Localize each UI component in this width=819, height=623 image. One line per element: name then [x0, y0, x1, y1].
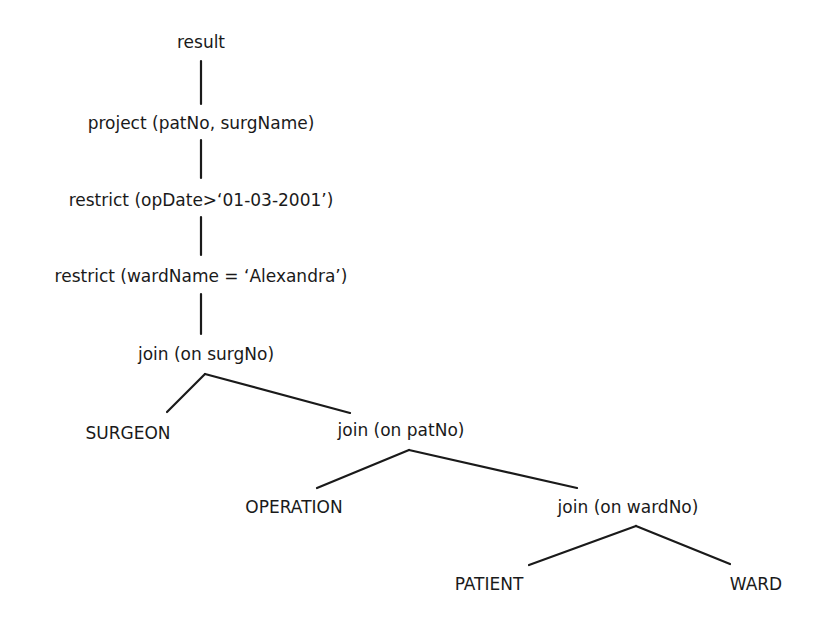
node-patient: PATIENT [455, 574, 524, 594]
node-ward: WARD [730, 574, 782, 594]
edge-join1-surgeon [167, 374, 205, 412]
node-join-surgno: join (on surgNo) [138, 344, 274, 364]
node-join-wardno: join (on wardNo) [558, 497, 699, 517]
node-result: result [177, 32, 225, 52]
edge-join3-patient [529, 526, 636, 565]
node-project: project (patNo, surgName) [88, 113, 315, 133]
edge-join2-join3 [409, 450, 577, 488]
relational-algebra-tree: result project (patNo, surgName) restric… [0, 0, 819, 623]
edge-join1-join2 [205, 374, 350, 413]
tree-edges [0, 0, 819, 623]
node-operation: OPERATION [245, 497, 342, 517]
node-restrict-opdate: restrict (opDate>‘01-03-2001’) [69, 190, 334, 210]
edge-join3-ward [636, 526, 730, 564]
node-surgeon: SURGEON [85, 423, 170, 443]
node-restrict-wardname: restrict (wardName = ‘Alexandra’) [55, 266, 348, 286]
node-join-patno: join (on patNo) [338, 420, 465, 440]
edge-join2-operation [317, 450, 409, 488]
